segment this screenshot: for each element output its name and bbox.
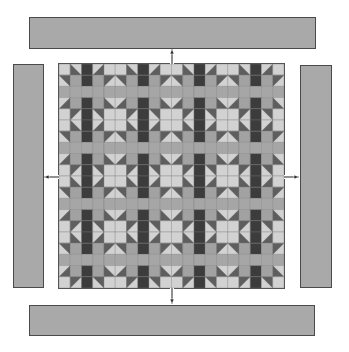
arrow-left-icon	[44, 175, 59, 179]
top-border	[29, 17, 316, 49]
quilt-center	[59, 64, 284, 288]
arrow-down-icon	[170, 288, 174, 304]
right-border	[300, 65, 332, 288]
bottom-border	[29, 305, 315, 336]
arrow-right-icon	[284, 175, 299, 179]
arrow-up-icon	[170, 49, 174, 64]
left-border	[13, 64, 44, 288]
